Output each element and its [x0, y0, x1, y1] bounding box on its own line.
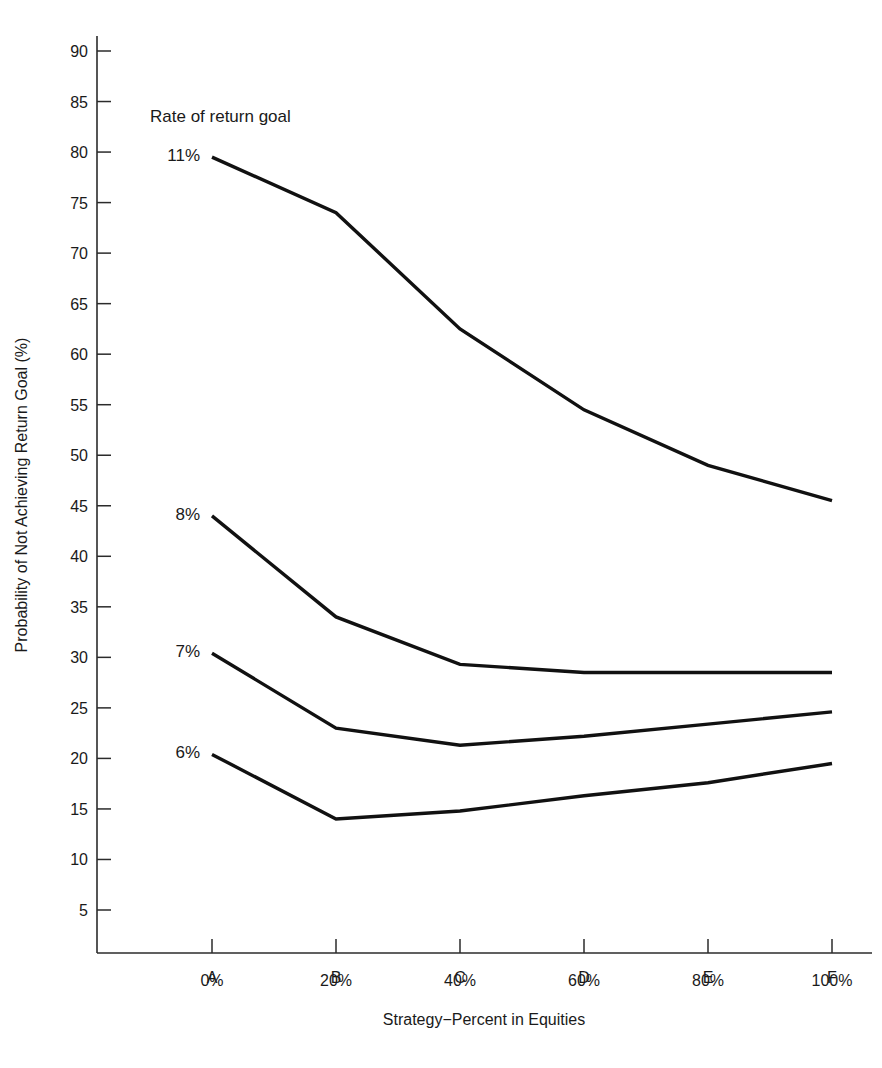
y-tick-label: 50 — [70, 447, 88, 464]
x-tick-sublabel: 20% — [320, 972, 352, 989]
y-tick-label: 75 — [70, 195, 88, 212]
series-label-6pct: 6% — [175, 743, 200, 762]
y-tick-label: 25 — [70, 700, 88, 717]
y-tick-label: 85 — [70, 94, 88, 111]
series-lines — [212, 157, 832, 819]
series-line-6pct — [212, 754, 832, 819]
x-tick-sublabel: 80% — [692, 972, 724, 989]
x-tick-sublabel: 0% — [200, 972, 223, 989]
x-tick-sublabel: 40% — [444, 972, 476, 989]
y-tick-label: 20 — [70, 750, 88, 767]
y-tick-label: 45 — [70, 498, 88, 515]
y-tick-label: 60 — [70, 346, 88, 363]
x-axis-title: Strategy−Percent in Equities — [383, 1011, 585, 1028]
y-axis-title: Probability of Not Achieving Return Goal… — [13, 338, 30, 653]
series-label-8pct: 8% — [175, 505, 200, 524]
series-label-7pct: 7% — [175, 642, 200, 661]
x-axis-ticks: A0%B20%C40%D60%E80%F100% — [200, 939, 852, 989]
chart-container: 51015202530354045505560657075808590 A0%B… — [0, 0, 882, 1068]
y-tick-label: 15 — [70, 801, 88, 818]
y-tick-label: 55 — [70, 397, 88, 414]
y-axis-ticks: 51015202530354045505560657075808590 — [70, 43, 111, 919]
y-tick-label: 65 — [70, 296, 88, 313]
x-tick-sublabel: 60% — [568, 972, 600, 989]
series-label-11pct: 11% — [167, 146, 200, 165]
series-labels: 11%8%7%6% — [167, 146, 200, 762]
series-line-8pct — [212, 516, 832, 673]
axes — [97, 36, 872, 953]
y-tick-label: 10 — [70, 851, 88, 868]
line-chart: 51015202530354045505560657075808590 A0%B… — [0, 0, 882, 1068]
rate-of-return-goal-annotation: Rate of return goal — [150, 107, 291, 126]
y-tick-label: 40 — [70, 548, 88, 565]
x-tick-sublabel: 100% — [812, 972, 853, 989]
y-tick-label: 90 — [70, 43, 88, 60]
y-tick-label: 35 — [70, 599, 88, 616]
series-line-11pct — [212, 157, 832, 501]
y-tick-label: 5 — [79, 902, 88, 919]
y-tick-label: 70 — [70, 245, 88, 262]
y-tick-label: 80 — [70, 144, 88, 161]
y-tick-label: 30 — [70, 649, 88, 666]
